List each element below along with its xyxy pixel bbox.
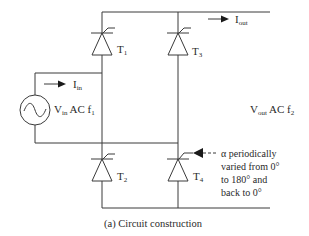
thyristor-t3-icon [168, 33, 188, 55]
figure-caption: (a) Circuit construction [104, 218, 203, 230]
thyristor-t4-icon [168, 159, 188, 181]
thyristor-t1-icon [92, 33, 112, 55]
thyristor-t3 [167, 28, 191, 55]
thyristor-t1 [91, 28, 115, 55]
thyristor-t2 [91, 154, 115, 181]
input-voltage-label: Vin AC f1 [54, 103, 95, 117]
cycloconverter-circuit-diagram: T1 T3 T2 T4 Iin Iout Vin AC f1 Vout AC f… [0, 0, 309, 236]
arrow-right-icon [58, 81, 66, 88]
gate-arrowhead-icon [193, 148, 203, 158]
input-current-arrow [44, 81, 66, 88]
t2-label: T2 [117, 170, 128, 184]
t1-label: T1 [117, 43, 128, 57]
output-voltage-label: Vout AC f2 [250, 103, 295, 117]
t4-label: T4 [193, 170, 204, 184]
thyristor-t4 [167, 153, 193, 181]
ac-source [20, 95, 50, 125]
gate-annotation-line3: to 180° and [221, 174, 267, 185]
output-current-arrow [208, 16, 229, 23]
gate-control-arrow [193, 148, 217, 158]
input-current-label: Iin [73, 78, 83, 92]
thyristor-t2-icon [92, 159, 112, 181]
t3-label: T3 [192, 45, 203, 59]
gate-annotation-line1: α periodically [221, 148, 277, 159]
output-current-label: Iout [235, 13, 248, 27]
arrow-right-icon [221, 16, 229, 23]
gate-annotation-line2: varied from 0° [221, 161, 279, 172]
gate-annotation: α periodically varied from 0° to 180° an… [221, 148, 279, 198]
gate-annotation-line4: back to 0° [221, 187, 262, 198]
